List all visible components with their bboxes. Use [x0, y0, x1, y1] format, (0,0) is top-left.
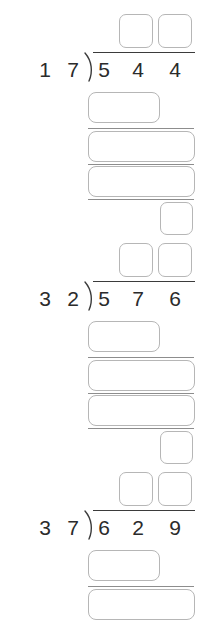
divisor-digit-3-2: 7	[66, 515, 80, 541]
work-box-2-2[interactable]	[88, 395, 195, 426]
quotient-box-2-2[interactable]	[158, 243, 192, 277]
divisor-digit-2-1: 3	[38, 286, 52, 312]
quotient-box-3-1[interactable]	[119, 472, 153, 506]
divisor-digit-1-1: 1	[38, 57, 52, 83]
dividend-digit-2-2: 7	[131, 286, 145, 312]
division-vinculum-1	[93, 52, 195, 53]
digits-row-2: 3 2 5 7 6	[0, 286, 200, 312]
subtraction-rule-1-1	[88, 128, 194, 129]
divisor-digit-3-1: 3	[38, 515, 52, 541]
quotient-box-3-2[interactable]	[158, 472, 192, 506]
divisor-digit-1-2: 7	[66, 57, 80, 83]
partial-product-box-2[interactable]	[88, 321, 160, 352]
dividend-digit-3-1: 6	[97, 515, 111, 541]
subtraction-rule-1-2	[88, 164, 194, 165]
dividend-digit-2-1: 5	[97, 286, 111, 312]
dividend-digit-2-3: 6	[168, 286, 182, 312]
remainder-box-1[interactable]	[160, 202, 193, 235]
dividend-digit-3-3: 9	[168, 515, 182, 541]
subtraction-rule-2-1	[88, 357, 194, 358]
dividend-digit-1-2: 4	[131, 57, 145, 83]
divisor-digit-2-2: 2	[66, 286, 80, 312]
subtraction-rule-3-1	[88, 586, 194, 587]
dividend-digit-1-1: 5	[97, 57, 111, 83]
work-box-3-1[interactable]	[88, 589, 195, 620]
division-vinculum-3	[93, 510, 195, 511]
work-box-1-2[interactable]	[88, 166, 195, 197]
work-box-2-1[interactable]	[88, 360, 195, 391]
dividend-digit-1-3: 4	[168, 57, 182, 83]
quotient-box-1-1[interactable]	[119, 14, 153, 48]
division-vinculum-2	[93, 281, 195, 282]
partial-product-box-1[interactable]	[88, 92, 160, 123]
partial-product-box-3[interactable]	[88, 550, 160, 581]
quotient-box-2-1[interactable]	[119, 243, 153, 277]
digits-row-1: 1 7 5 4 4	[0, 57, 200, 83]
digits-row-3: 3 7 6 2 9	[0, 515, 200, 541]
subtraction-rule-2-3	[88, 428, 194, 429]
subtraction-rule-1-3	[88, 199, 194, 200]
work-box-1-1[interactable]	[88, 131, 195, 162]
quotient-box-1-2[interactable]	[158, 14, 192, 48]
dividend-digit-3-2: 2	[131, 515, 145, 541]
subtraction-rule-2-2	[88, 393, 194, 394]
remainder-box-2[interactable]	[160, 431, 193, 464]
